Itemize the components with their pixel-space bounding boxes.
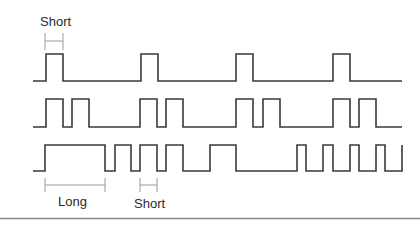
short-label-bottom: Short	[134, 196, 165, 211]
short-label-top: Short	[40, 14, 71, 29]
waveform-1	[33, 54, 402, 81]
long-label: Long	[58, 194, 87, 209]
pulse-diagram: Short Long Short	[0, 0, 420, 226]
waveform-3	[33, 145, 402, 171]
short-dimension-bottom	[140, 178, 157, 192]
short-dimension-top	[45, 33, 63, 50]
long-dimension	[45, 178, 105, 192]
waveform-2	[33, 99, 402, 127]
